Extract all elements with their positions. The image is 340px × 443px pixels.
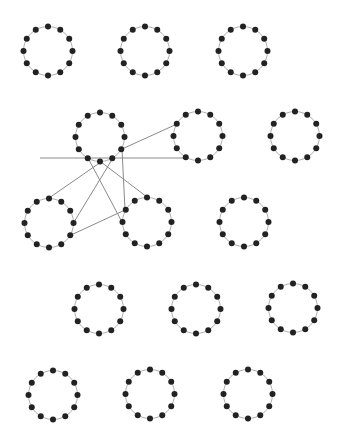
ring-node <box>268 133 274 139</box>
ring-node <box>58 199 64 205</box>
ring-node <box>241 244 247 250</box>
ring-node <box>181 285 187 291</box>
ring-node <box>183 154 189 160</box>
ring-node <box>195 158 201 164</box>
ring-node <box>108 327 114 333</box>
ring-node <box>66 60 72 66</box>
ring-node <box>172 294 178 300</box>
ring-node <box>262 207 268 213</box>
ring-node <box>252 69 258 75</box>
ring-node <box>147 416 153 422</box>
ring-node <box>169 306 175 312</box>
ring-node <box>34 241 40 247</box>
ring-node <box>126 379 132 385</box>
ring-node <box>252 27 258 33</box>
ring-node <box>142 73 148 79</box>
ring-node <box>50 417 56 423</box>
ring-node <box>70 48 76 54</box>
ring-node <box>257 370 263 376</box>
ring-node <box>71 404 77 410</box>
ring-node <box>159 370 165 376</box>
ring-node <box>29 404 35 410</box>
ring-node <box>207 112 213 118</box>
ring-node <box>97 159 103 165</box>
ring-node <box>76 122 82 128</box>
ring-node <box>46 245 52 251</box>
ring-node <box>245 367 251 373</box>
ring-node <box>261 36 267 42</box>
ring-node <box>221 391 227 397</box>
ring-node <box>108 285 114 291</box>
ring-node <box>218 306 224 312</box>
ring-node <box>280 154 286 160</box>
ring-node <box>123 231 129 237</box>
ring-node <box>216 121 222 127</box>
ring-node <box>228 69 234 75</box>
ring-node <box>233 412 239 418</box>
ring-node <box>167 48 173 54</box>
ring-node <box>163 60 169 66</box>
ring-node <box>142 24 148 30</box>
ring-node <box>220 207 226 213</box>
ring-node <box>130 27 136 33</box>
ring-node <box>62 413 68 419</box>
ring-node <box>62 371 68 377</box>
ring-node <box>29 380 35 386</box>
ring-node <box>278 326 284 332</box>
ring-node <box>315 305 321 311</box>
ring-node <box>24 60 30 66</box>
ring-node <box>25 208 31 214</box>
ring-node <box>66 36 72 42</box>
ring-node <box>257 412 263 418</box>
ring-node <box>205 327 211 333</box>
ring-node <box>73 134 79 140</box>
ring-node <box>118 122 124 128</box>
ring-node <box>57 69 63 75</box>
ring-node <box>171 133 177 139</box>
ring-node <box>174 145 180 151</box>
ring-node <box>207 154 213 160</box>
ring-node <box>67 208 73 214</box>
ring-node <box>84 327 90 333</box>
ring-node <box>292 109 298 115</box>
ring-node <box>195 109 201 115</box>
ring-node <box>135 370 141 376</box>
ring-node <box>24 36 30 42</box>
ring-node <box>26 392 32 398</box>
ring-node <box>117 318 123 324</box>
ring-node <box>58 241 64 247</box>
ring-node <box>67 232 73 238</box>
ring-node <box>38 413 44 419</box>
ring-node <box>85 113 91 119</box>
ring-node <box>266 379 272 385</box>
ring-node <box>241 195 247 201</box>
ring-node <box>172 318 178 324</box>
ring-node <box>156 198 162 204</box>
ring-node <box>165 207 171 213</box>
ring-node <box>280 112 286 118</box>
ring-node <box>33 69 39 75</box>
ring-node <box>96 331 102 337</box>
ring-node <box>84 285 90 291</box>
ring-node <box>261 60 267 66</box>
ring-node <box>216 48 222 54</box>
ring-node <box>144 244 150 250</box>
ring-node <box>71 220 77 226</box>
ring-node <box>46 196 52 202</box>
ring-node <box>269 293 275 299</box>
ring-node <box>245 416 251 422</box>
ring-node <box>57 27 63 33</box>
ring-node <box>75 318 81 324</box>
ring-node <box>240 73 246 79</box>
ring-node <box>220 231 226 237</box>
ring-node <box>123 207 129 213</box>
ring-node <box>266 219 272 225</box>
ring-node <box>317 133 323 139</box>
ring-node <box>216 145 222 151</box>
ring-node <box>22 220 28 226</box>
ring-node <box>126 403 132 409</box>
ring-node <box>220 133 226 139</box>
ring-node <box>168 403 174 409</box>
ring-node <box>183 112 189 118</box>
ring-node <box>130 69 136 75</box>
